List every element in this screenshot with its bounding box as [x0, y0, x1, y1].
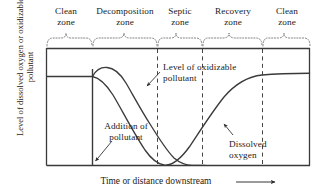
plot-canvas [0, 0, 326, 194]
annotation-level-of-oxidizable-pollutant: Level of oxidizable pollutant [163, 62, 236, 84]
zone-brace-septic [158, 33, 202, 46]
zone-brace-clean-left [47, 33, 92, 46]
annotation-line2: pollutant [163, 73, 236, 84]
zone-brace-decomposition [93, 33, 157, 46]
zone-brace-group [47, 33, 310, 46]
annotation-line2: pollutant [95, 132, 157, 143]
leader-dissolved-oxygen [224, 124, 233, 135]
water-quality-oxygen-sag-figure: Clean zone Decomposition zone Septic zon… [0, 0, 326, 194]
annotation-line2: oxygen [229, 150, 267, 161]
curve-dissolved-oxygen [47, 73, 310, 165]
annotation-line1: Addition of [95, 121, 157, 132]
annotation-line1: Level of oxidizable [163, 62, 236, 73]
annotation-addition-of-pollutant: Addition of pollutant [95, 121, 157, 143]
leader-level-of-oxidizable-pollutant [147, 72, 160, 86]
zone-brace-clean-right [263, 33, 310, 46]
annotation-leader-group [96, 72, 234, 161]
annotation-dissolved-oxygen: Dissolved oxygen [229, 139, 267, 161]
x-axis-label: Time or distance downstream [66, 176, 246, 186]
zone-brace-recovery [203, 33, 262, 46]
x-axis-label-text: Time or distance downstream [101, 176, 212, 186]
annotation-line1: Dissolved [229, 139, 267, 150]
leader-addition-of-pollutant [96, 141, 113, 161]
